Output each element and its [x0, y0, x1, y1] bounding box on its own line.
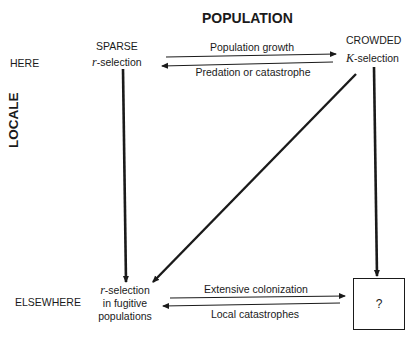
population-title: POPULATION — [202, 12, 293, 24]
colonization-arrow — [170, 296, 345, 298]
sparse-node: r-selection — [92, 56, 142, 68]
crowded-node: K-selection — [346, 52, 399, 64]
crowded-to-box-arrow — [374, 67, 377, 276]
growth-arrow — [166, 54, 336, 57]
unknown-box: ? — [353, 278, 405, 330]
row-label-here: HERE — [10, 57, 39, 69]
fugitive-node: r-selection in fugitive populations — [92, 284, 158, 323]
sparse-to-fugitive-arrow — [123, 69, 126, 282]
locale-axis-label: LOCALE — [6, 93, 21, 149]
edge-label-colonization: Extensive colonization — [194, 283, 318, 295]
k-symbol: K — [346, 51, 354, 65]
local-catastrophe-arrow — [163, 303, 340, 306]
row-label-elsewhere: ELSEWHERE — [15, 296, 81, 308]
edge-label-growth: Population growth — [200, 41, 304, 53]
edge-label-local-catastrophes: Local catastrophes — [200, 308, 310, 320]
edge-label-predation: Predation or catastrophe — [184, 66, 322, 78]
crowded-heading: CROWDED — [346, 34, 401, 46]
crowded-to-fugitive-arrow — [153, 74, 356, 282]
sparse-heading: SPARSE — [96, 40, 138, 52]
